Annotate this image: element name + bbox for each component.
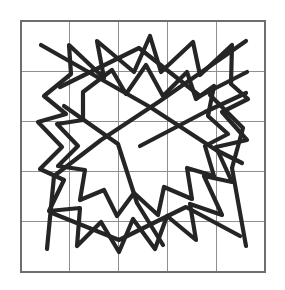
geometric-figure-canvas bbox=[0, 0, 285, 290]
figure-page: Geometric Figure on Grid Overlapping ang… bbox=[0, 0, 285, 290]
